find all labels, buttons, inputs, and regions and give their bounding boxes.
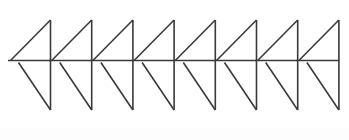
bottom-edge-band (0, 129, 349, 140)
figure-canvas (0, 0, 349, 140)
zigzag-motif-drawing (0, 0, 349, 140)
